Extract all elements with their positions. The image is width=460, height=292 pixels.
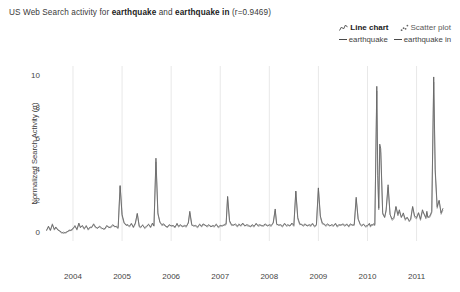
chart-title-correlation: (r=0.9469) <box>230 8 271 17</box>
legend-label-earthquake: earthquake <box>349 35 388 44</box>
chart-title: US Web Search activity for earthquake an… <box>9 7 271 18</box>
legend-swatch-earthquake <box>339 39 347 40</box>
x-axis-tick-labels: 20042005200620072008200920102011 <box>46 272 446 284</box>
series-lines <box>46 77 443 233</box>
legend-label-earthquake-in: earthquake in <box>404 35 451 44</box>
chart-title-term-b: earthquake in <box>175 8 230 17</box>
series-line-earthquake <box>46 77 443 233</box>
y-tick-label: 8 <box>26 102 40 111</box>
legend-swatch-earthquake-in <box>394 39 402 40</box>
legend-entry-earthquake-in[interactable]: earthquake in <box>394 35 451 44</box>
series-line-earthquake-in <box>46 82 443 233</box>
x-tick-label: 2011 <box>408 272 425 281</box>
chart-title-prefix: US Web Search activity for <box>9 8 112 17</box>
chart-title-term-a: earthquake <box>112 8 157 17</box>
x-tick-label: 2009 <box>309 272 327 281</box>
x-tick-label: 2004 <box>64 272 82 281</box>
plot-svg <box>46 66 446 241</box>
y-tick-label: 10 <box>26 71 40 80</box>
y-tick-label: 2 <box>26 196 40 205</box>
chart-type-line-chart[interactable]: Line chart <box>339 23 388 32</box>
y-axis-tick-labels: 0246810 <box>26 66 40 241</box>
line-chart-icon <box>339 24 348 32</box>
y-tick-label: 0 <box>26 227 40 236</box>
scatter-plot-icon <box>400 24 409 32</box>
chart-type-line-chart-label: Line chart <box>350 23 388 32</box>
gridlines <box>73 66 417 241</box>
chart-title-conjunction: and <box>156 8 175 17</box>
plot-area[interactable] <box>46 66 446 241</box>
x-tick-label: 2007 <box>211 272 229 281</box>
x-tick-label: 2005 <box>113 272 131 281</box>
x-tick-label: 2010 <box>359 272 377 281</box>
chart-type-toggles: Line chart Scatter plot <box>339 23 451 32</box>
x-tick-label: 2008 <box>260 272 278 281</box>
legend-entry-earthquake[interactable]: earthquake <box>339 35 388 44</box>
y-tick-label: 6 <box>26 133 40 142</box>
series-legend: earthquake earthquake in <box>339 35 451 44</box>
chart-type-scatter-plot[interactable]: Scatter plot <box>400 23 451 32</box>
chart-type-scatter-plot-label: Scatter plot <box>411 23 451 32</box>
y-tick-label: 4 <box>26 165 40 174</box>
x-tick-label: 2006 <box>162 272 180 281</box>
